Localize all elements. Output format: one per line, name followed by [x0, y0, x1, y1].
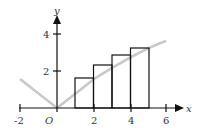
y-axis-arrow-icon [53, 15, 61, 24]
y-tick-label: 2 [43, 66, 49, 77]
x-tick-label: 2 [91, 115, 97, 126]
x-axis-label: x [186, 103, 192, 114]
riemann-rectangles [75, 48, 149, 108]
x-tick-label: 6 [163, 115, 169, 126]
y-axis-label: y [53, 5, 60, 16]
x-axis-arrow-icon [175, 104, 184, 112]
riemann-sum-diagram: -2 O 2 4 6 x 2 4 y [0, 0, 203, 134]
y-tick-label: 4 [43, 29, 49, 40]
origin-label: O [45, 115, 53, 126]
x-tick-label: 4 [128, 115, 134, 126]
x-tick-label: -2 [14, 115, 24, 126]
